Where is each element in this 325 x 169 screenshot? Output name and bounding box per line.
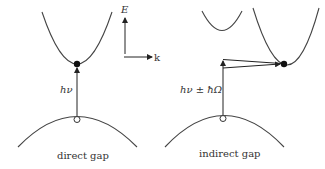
band-diagram: hν direct gap E k hν ± ħΩ indirect gap (0, 0, 325, 169)
direct-hole-icon (74, 117, 80, 123)
direct-conduction-band (42, 12, 112, 64)
indirect-phonon-path-upper (223, 60, 281, 64)
indirect-electron-icon (281, 61, 287, 67)
indirect-conduction-band-main (253, 8, 319, 65)
direct-gap-panel: hν direct gap (18, 12, 137, 161)
direct-transition-label: hν (60, 84, 73, 95)
indirect-phonon-arrow (223, 64, 280, 68)
direct-gap-caption: direct gap (57, 150, 109, 161)
momentum-axis-label: k (154, 52, 161, 63)
energy-momentum-axes: E k (120, 4, 161, 63)
energy-axis-label: E (120, 4, 129, 15)
direct-electron-icon (74, 61, 80, 67)
indirect-gap-panel: hν ± ħΩ indirect gap (165, 8, 319, 159)
indirect-gap-caption: indirect gap (199, 148, 261, 159)
indirect-transition-label: hν ± ħΩ (180, 84, 222, 95)
indirect-conduction-band-secondary (202, 11, 242, 31)
indirect-hole-icon (220, 116, 226, 122)
